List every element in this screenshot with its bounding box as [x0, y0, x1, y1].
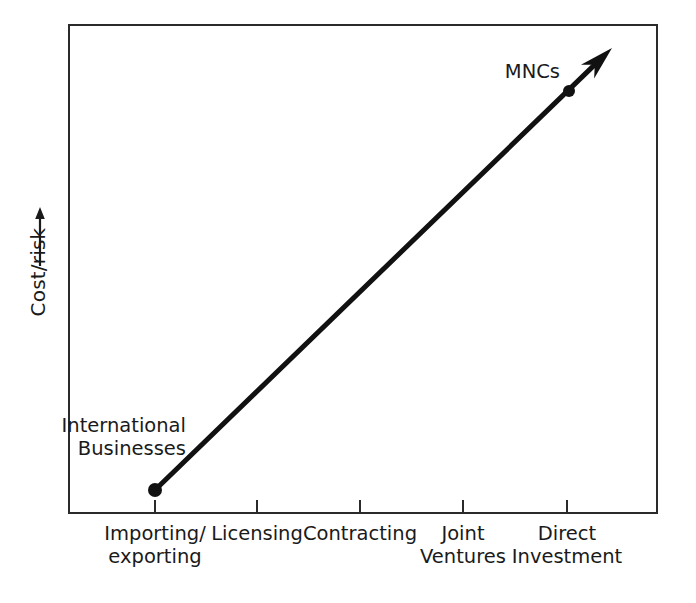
y-axis-label-text: Cost/risk — [26, 192, 50, 352]
figure-canvas: Cost/risk Importing/ exporting Licensing… — [0, 0, 696, 603]
x-tick-label-direct-investment: Direct Investment — [482, 522, 652, 568]
annotation-international-businesses: International Businesses — [0, 414, 186, 460]
annotation-mncs: MNCs — [440, 60, 560, 83]
y-axis-label-group: Cost/risk — [0, 200, 80, 360]
